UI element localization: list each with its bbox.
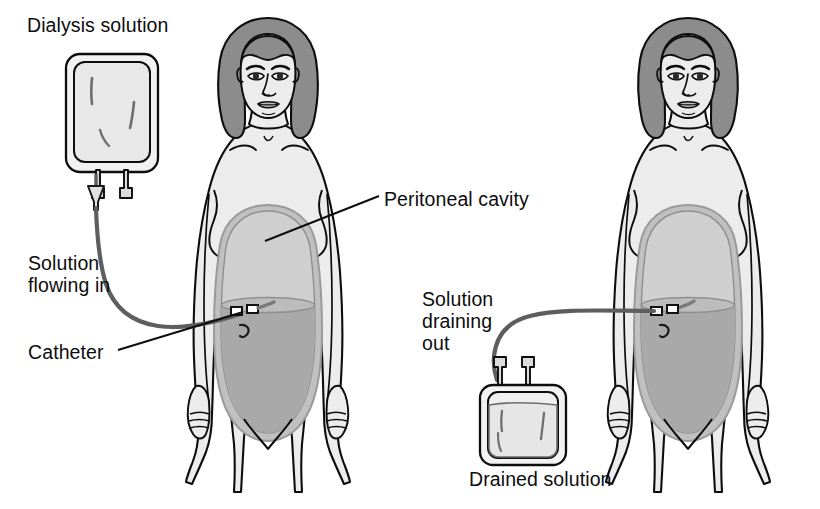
- figure-artwork: [0, 0, 820, 509]
- infusion-panel-artwork: [66, 18, 379, 492]
- peritoneal-dialysis-figure: Dialysis solution Solution flowing in Ca…: [0, 0, 820, 509]
- label-solution-draining-out: Solution draining out: [422, 288, 493, 354]
- label-catheter: Catheter: [28, 341, 104, 363]
- peritoneal-cavity-right: [634, 205, 742, 449]
- label-peritoneal-cavity: Peritoneal cavity: [384, 188, 529, 210]
- drainage-panel-artwork: [480, 18, 770, 492]
- label-solution-flowing-in: Solution flowing in: [28, 252, 110, 296]
- catheter-connector-clamp-2: [247, 305, 258, 313]
- drained-solution-bag: [480, 357, 566, 465]
- label-dialysis-solution: Dialysis solution: [27, 14, 169, 36]
- dialysis-solution-bag: [66, 54, 158, 198]
- label-drained-solution: Drained solution: [469, 468, 612, 490]
- catheter-connector-clamp-4: [667, 305, 678, 313]
- bag-inlet-ports: [494, 357, 534, 385]
- peritoneal-cavity-left: [214, 205, 322, 449]
